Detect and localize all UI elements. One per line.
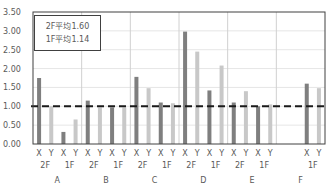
x-series-label: X bbox=[182, 149, 188, 158]
bar-B-2F-Y bbox=[98, 107, 102, 144]
x-floor-label: 2F bbox=[89, 161, 99, 170]
y-tick-label: 1.50 bbox=[3, 83, 21, 92]
x-series-label: Y bbox=[169, 149, 175, 158]
y-tick-label: 2.50 bbox=[3, 46, 21, 55]
y-tick-label: 3.00 bbox=[3, 27, 21, 36]
x-series-label: Y bbox=[194, 149, 200, 158]
x-series-label: Y bbox=[48, 149, 54, 158]
x-floor-label: 2F bbox=[186, 161, 196, 170]
legend-1f-average: 1F平均1.14 bbox=[35, 33, 100, 46]
bar-C-1F-Y bbox=[171, 103, 175, 144]
x-series-label: X bbox=[207, 149, 213, 158]
x-floor-label: 1F bbox=[259, 161, 269, 170]
x-axis-labels: XY2FXY1FAXY2FXY1FBXY2FXY1FCXY2FXY1FDXY2F… bbox=[36, 149, 321, 185]
bar-E-1F-X bbox=[256, 106, 260, 144]
x-series-label: Y bbox=[267, 149, 273, 158]
x-group-label: C bbox=[152, 176, 158, 185]
y-tick-label: 0.00 bbox=[3, 140, 21, 149]
x-floor-label: 2F bbox=[40, 161, 50, 170]
x-series-label: X bbox=[85, 149, 91, 158]
x-floor-label: 1F bbox=[65, 161, 75, 170]
bar-F-1F-Y bbox=[317, 88, 321, 144]
bar-D-2F-Y bbox=[195, 52, 199, 144]
x-group-label: E bbox=[249, 176, 254, 185]
x-series-label: X bbox=[61, 149, 67, 158]
x-series-label: Y bbox=[242, 149, 248, 158]
x-series-label: Y bbox=[96, 149, 102, 158]
bar-C-2F-X bbox=[134, 77, 138, 144]
bar-E-2F-Y bbox=[244, 91, 248, 144]
y-tick-label: 1.00 bbox=[3, 102, 21, 111]
x-series-label: X bbox=[231, 149, 237, 158]
bar-C-2F-Y bbox=[147, 88, 151, 144]
x-series-label: X bbox=[134, 149, 140, 158]
x-series-label: X bbox=[158, 149, 164, 158]
x-floor-label: 2F bbox=[138, 161, 148, 170]
x-group-label: A bbox=[55, 176, 61, 185]
bar-D-1F-Y bbox=[220, 66, 224, 144]
x-series-label: X bbox=[255, 149, 261, 158]
x-series-label: Y bbox=[218, 149, 224, 158]
x-series-label: Y bbox=[121, 149, 127, 158]
bar-B-1F-Y bbox=[122, 107, 126, 144]
x-series-label: Y bbox=[145, 149, 151, 158]
bar-E-1F-Y bbox=[268, 104, 272, 144]
x-series-label: Y bbox=[315, 149, 321, 158]
y-tick-label: 0.50 bbox=[3, 121, 21, 130]
x-series-label: X bbox=[304, 149, 310, 158]
x-group-label: F bbox=[298, 176, 303, 185]
x-series-label: X bbox=[36, 149, 42, 158]
bar-B-1F-X bbox=[110, 107, 114, 144]
y-tick-label: 3.50 bbox=[3, 8, 21, 17]
x-group-label: B bbox=[103, 176, 109, 185]
y-axis: 0.000.501.001.502.002.503.003.50 bbox=[3, 8, 21, 149]
bar-A-2F-X bbox=[37, 78, 41, 144]
x-floor-label: 1F bbox=[162, 161, 172, 170]
x-series-label: Y bbox=[72, 149, 78, 158]
bar-D-1F-X bbox=[207, 90, 211, 144]
bar-C-1F-X bbox=[159, 103, 163, 144]
x-group-label: D bbox=[200, 176, 206, 185]
bar-D-2F-X bbox=[183, 32, 187, 144]
x-floor-label: 2F bbox=[235, 161, 245, 170]
x-floor-label: 1F bbox=[308, 161, 318, 170]
x-floor-label: 1F bbox=[211, 161, 221, 170]
x-series-label: X bbox=[109, 149, 115, 158]
bar-A-1F-X bbox=[61, 132, 65, 144]
bar-F-1F-X bbox=[305, 84, 309, 144]
y-tick-label: 2.00 bbox=[3, 65, 21, 74]
bar-E-2F-X bbox=[232, 103, 236, 144]
x-floor-label: 1F bbox=[113, 161, 123, 170]
legend-2f-average: 2F平均1.60 bbox=[35, 20, 100, 33]
bar-A-2F-Y bbox=[49, 106, 53, 144]
legend-box: 2F平均1.60 1F平均1.14 bbox=[34, 15, 101, 51]
bar-A-1F-Y bbox=[74, 119, 78, 144]
